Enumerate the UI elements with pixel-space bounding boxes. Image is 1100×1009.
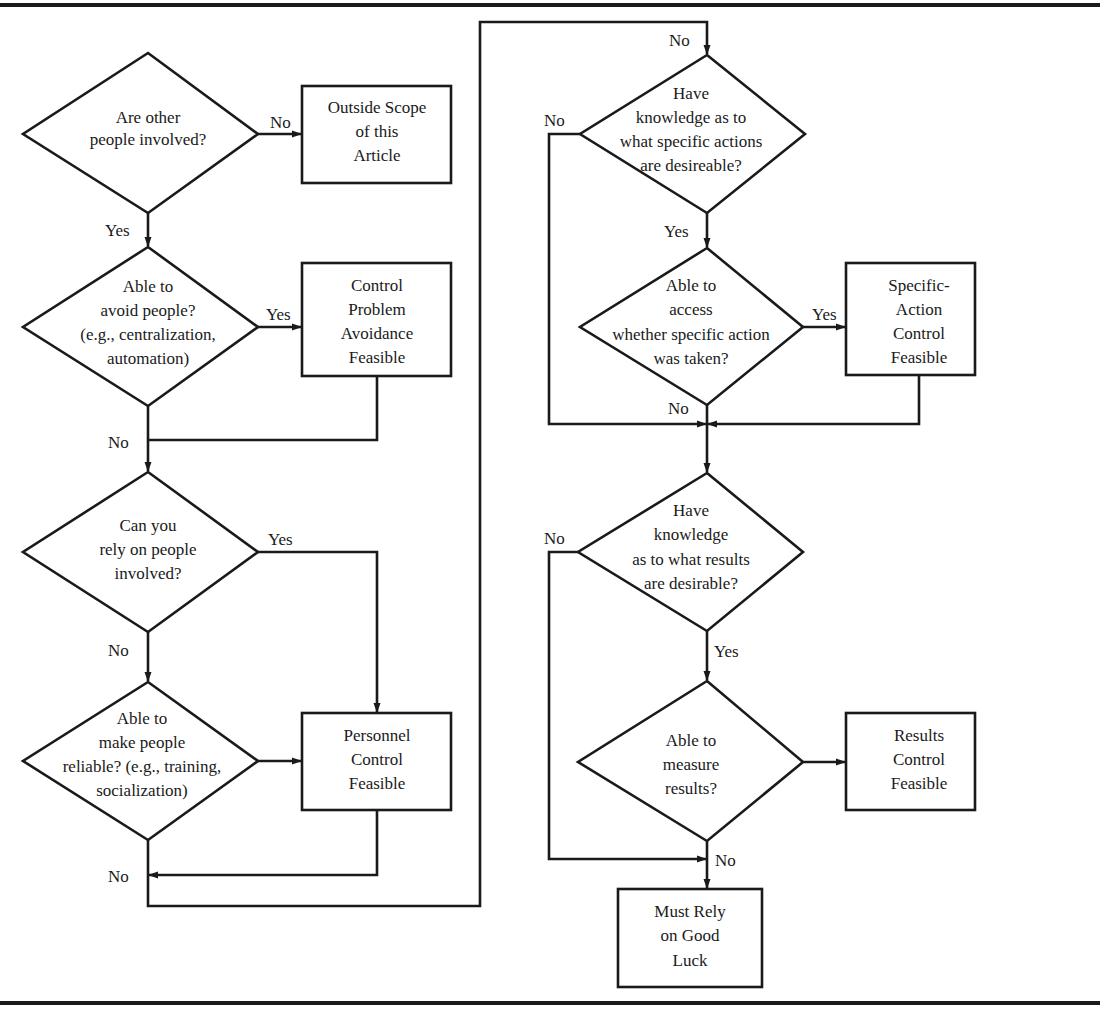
outcome-text: Article xyxy=(353,146,400,165)
outcome-text: Specific- xyxy=(888,276,950,295)
edge-label-no: No xyxy=(669,31,690,50)
decision-text: Have xyxy=(673,84,709,103)
outcome-text: Personnel xyxy=(343,726,410,745)
edge-label-yes: Yes xyxy=(266,305,291,324)
outcome-control-problem-avoidance: Control Problem Avoidance Feasible xyxy=(302,263,451,376)
outcome-text: Feasible xyxy=(349,774,406,793)
decision-text: automation) xyxy=(107,349,189,368)
outcome-text: Feasible xyxy=(891,348,948,367)
edge-label-yes: Yes xyxy=(105,221,130,240)
decision-text: rely on people xyxy=(99,540,196,559)
decision-text: Can you xyxy=(119,516,177,535)
decision-text: are desireable? xyxy=(640,156,741,175)
decision-text: what specific actions xyxy=(620,132,763,151)
decision-text: avoid people? xyxy=(101,301,196,320)
outcome-text: Action xyxy=(896,300,943,319)
decision-text: was taken? xyxy=(653,349,728,368)
edge-label-yes: Yes xyxy=(714,642,739,661)
outcome-text: Control xyxy=(893,324,945,343)
outcome-must-rely-on-good-luck: Must Rely on Good Luck xyxy=(618,889,762,987)
decision-make-people-reliable: Able to make people reliable? (e.g., tra… xyxy=(23,682,258,840)
decision-text: knowledge xyxy=(654,525,729,544)
outcome-text: Feasible xyxy=(891,774,948,793)
edge-label-no: No xyxy=(108,433,129,452)
outcome-specific-action-control: Specific- Action Control Feasible xyxy=(846,263,975,375)
decision-knowledge-specific-actions: Have knowledge as to what specific actio… xyxy=(580,55,805,213)
decision-text: Are other xyxy=(116,108,181,127)
outcome-text: of this xyxy=(356,122,399,141)
decision-text: measure xyxy=(663,755,720,774)
edge-label-no: No xyxy=(668,399,689,418)
decision-text: Able to xyxy=(666,731,717,750)
decision-text: Able to xyxy=(117,709,168,728)
outcome-results-control: Results Control Feasible xyxy=(846,713,975,810)
edge-label-yes: Yes xyxy=(812,305,837,324)
decision-knowledge-results: Have knowledge as to what results are de… xyxy=(578,473,803,631)
decision-text: reliable? (e.g., training, xyxy=(63,757,222,776)
outcome-text: Control xyxy=(351,750,403,769)
decision-text: results? xyxy=(665,779,717,798)
outcome-text: Outside Scope xyxy=(328,98,427,117)
edge-label-no: No xyxy=(108,867,129,886)
decision-text: involved? xyxy=(114,564,181,583)
decision-text: make people xyxy=(99,733,185,752)
decision-text: Able to xyxy=(666,276,717,295)
outcome-text: Control xyxy=(351,276,403,295)
decision-text: Able to xyxy=(123,277,174,296)
outcome-text: Luck xyxy=(673,951,708,970)
edge-o4-return xyxy=(708,375,919,424)
outcome-outside-scope: Outside Scope of this Article xyxy=(302,86,451,183)
decision-text: Have xyxy=(673,501,709,520)
decision-text: (e.g., centralization, xyxy=(80,325,215,344)
decision-measure-results: Able to measure results? xyxy=(578,681,803,841)
outcome-text: Problem xyxy=(348,300,406,319)
decision-text: whether specific action xyxy=(612,325,770,344)
edge-label-no: No xyxy=(108,641,129,660)
outcome-text: Feasible xyxy=(349,348,406,367)
outcome-personnel-control: Personnel Control Feasible xyxy=(302,713,451,810)
decision-rely-on-people: Can you rely on people involved? xyxy=(23,472,258,632)
edge-o2-merge xyxy=(148,376,377,440)
edge-label-no: No xyxy=(715,851,736,870)
outcome-text: on Good xyxy=(660,926,720,945)
decision-text: knowledge as to xyxy=(636,108,746,127)
flowchart-canvas: Are other people involved? No Outside Sc… xyxy=(0,0,1100,1009)
edge-d3-yes xyxy=(258,552,377,712)
edge-label-no: No xyxy=(544,529,565,548)
outcome-text: Control xyxy=(893,750,945,769)
decision-text: people involved? xyxy=(90,130,207,149)
edge-label-no: No xyxy=(544,111,565,130)
decision-text: as to what results xyxy=(632,550,750,569)
decision-avoid-people: Able to avoid people? (e.g., centralizat… xyxy=(23,247,258,406)
edge-label-yes: Yes xyxy=(268,530,293,549)
edge-o3-return xyxy=(149,810,377,875)
outcome-text: Results xyxy=(894,726,944,745)
edge-label-yes: Yes xyxy=(664,222,689,241)
outcome-text: Avoidance xyxy=(341,324,413,343)
decision-text: access xyxy=(669,300,712,319)
decision-text: socialization) xyxy=(96,781,188,800)
outcome-text: Must Rely xyxy=(654,902,726,921)
decision-text: are desirable? xyxy=(644,574,738,593)
decision-access-specific-action: Able to access whether specific action w… xyxy=(580,248,803,405)
edge-label-no: No xyxy=(270,113,291,132)
decision-other-people-involved: Are other people involved? xyxy=(23,53,258,213)
